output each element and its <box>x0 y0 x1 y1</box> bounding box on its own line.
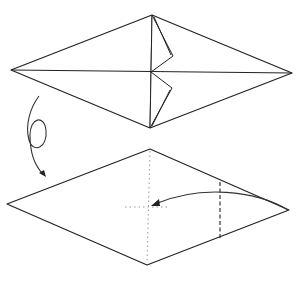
upper-flap-top <box>151 15 173 72</box>
fold-arrowhead-icon <box>151 199 160 206</box>
step-upper <box>11 15 292 128</box>
turn-over-symbol <box>28 96 47 177</box>
loop-arrow-icon <box>28 96 47 174</box>
step-lower <box>7 149 289 265</box>
curved-arrow-icon <box>155 192 288 210</box>
upper-flap-bottom <box>150 72 172 128</box>
diagram-canvas <box>0 0 299 285</box>
origami-diagram <box>0 0 299 285</box>
